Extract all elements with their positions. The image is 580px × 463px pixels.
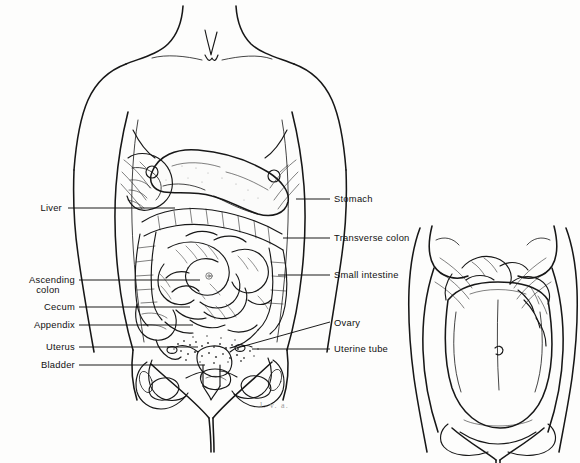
leader-ovary <box>237 322 330 348</box>
artist-signature: l. v. a. <box>260 401 289 410</box>
label-appendix: Appendix <box>34 319 75 330</box>
stomach-organ <box>140 150 288 216</box>
uterus-bladder-group <box>167 345 252 390</box>
label-ascending-colon-line2: colon <box>36 284 60 295</box>
label-liver: Liver <box>40 202 62 213</box>
small-intestine-organ <box>158 231 271 333</box>
label-uterus: Uterus <box>46 341 75 352</box>
left-figure-torso: l. v. a. <box>74 6 347 452</box>
label-stomach: Stomach <box>334 193 373 204</box>
hip-contour <box>132 350 288 400</box>
labels-left-group: Liver Ascending colon Cecum Appendix Ute… <box>29 202 75 370</box>
label-small-intestine: Small intestine <box>334 269 399 280</box>
label-ovary: Ovary <box>334 317 360 328</box>
label-cecum: Cecum <box>44 301 75 312</box>
right-figure-pelvis <box>441 424 556 463</box>
label-uterine-tube: Uterine tube <box>334 343 388 354</box>
right-figure-pregnant-torso <box>409 226 578 463</box>
label-transverse-colon: Transverse colon <box>334 232 410 243</box>
leader-lines-right <box>237 199 330 349</box>
label-bladder: Bladder <box>41 359 75 370</box>
flared-ribs <box>435 258 551 308</box>
anatomy-figure-root: l. v. a. <box>0 0 580 463</box>
anatomy-illustration: l. v. a. <box>0 0 580 463</box>
